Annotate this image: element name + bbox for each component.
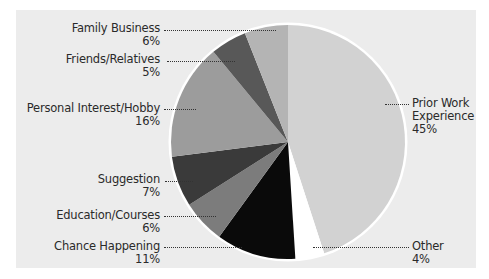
leader-personal-interest xyxy=(164,109,196,110)
leader-friends-relatives xyxy=(167,61,235,62)
label-suggestion: Suggestion 7% xyxy=(98,173,160,199)
leader-other xyxy=(313,247,409,248)
label-value: 45% xyxy=(412,123,474,136)
leader-chance xyxy=(164,247,242,248)
label-other: Other 4% xyxy=(412,240,444,266)
leader-suggestion xyxy=(165,181,193,182)
label-value: 4% xyxy=(412,253,444,266)
leader-education xyxy=(164,216,216,217)
label-value: 6% xyxy=(56,222,160,235)
label-education: Education/Courses 6% xyxy=(56,209,160,235)
leader-prior-work xyxy=(385,104,409,105)
label-prior-work: Prior Work Experience 45% xyxy=(412,97,474,136)
label-family-business: Family Business 6% xyxy=(72,22,160,48)
label-friends-relatives: Friends/Relatives 5% xyxy=(66,53,160,79)
label-value: 16% xyxy=(27,115,160,128)
label-value: 11% xyxy=(54,253,160,266)
label-value: 5% xyxy=(66,66,160,79)
label-value: 7% xyxy=(98,186,160,199)
label-value: 6% xyxy=(72,35,160,48)
label-personal-interest: Personal Interest/Hobby 16% xyxy=(27,102,160,128)
label-chance: Chance Happening 11% xyxy=(54,240,160,266)
leader-family-business xyxy=(164,30,276,31)
